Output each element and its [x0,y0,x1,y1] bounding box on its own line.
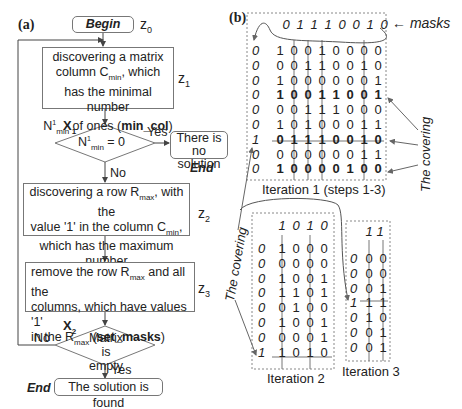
matrix-cell: 0 [372,58,384,73]
matrix-cell: 0 [288,43,300,58]
state-z2: z2 [198,205,210,224]
step-min-col-box: discovering a matrix column Cmin, which … [42,47,174,109]
z3-line1: remove the row Rmax and all the [31,265,194,300]
z2-sub: 2 [205,214,210,224]
z1-line3: has the minimal number [43,85,173,115]
no-solution-terminal: There is no solution [170,131,228,159]
matrix-cell: 0 [330,58,342,73]
matrix-cell: 1 [377,325,389,340]
matrix-cell: 1 [276,271,288,286]
matrix-cell: 0 [330,161,342,176]
matrix-cell: 0 [302,43,314,58]
row-mask: 0 [258,241,265,256]
matrix-cell: 1 [316,132,328,147]
matrix-cell: 0 [288,58,300,73]
row-mask: 1 [258,345,265,360]
matrix-cell: 1 [302,132,314,147]
matrix-cell: 0 [276,256,288,271]
row-mask: 0 [252,102,259,117]
matrix-cell: 1 [318,285,330,300]
matrix-cell: 0 [288,87,300,102]
matrix-cell: 0 [363,251,375,266]
matrix-cell: 0 [304,256,316,271]
matrix-cell: 0 [344,87,356,102]
matrix-cell: 0 [330,117,342,132]
z2-line2: value '1' in the column Cmin, [24,220,189,240]
panel-b-label: (b) [229,10,246,26]
matrix-cell: 1 [372,117,384,132]
matrix-cell: 0 [318,241,330,256]
matrix-cell: 0 [377,251,389,266]
matrix-cell: 0 [302,147,314,162]
matrix-cell: 1 [377,340,389,355]
decision-x2-label: X2 [63,318,76,336]
matrix-cell: 1 [274,73,286,88]
matrix-cell: 1 [318,330,330,345]
matrix-cell: 1 [316,102,328,117]
matrix-cell: 0 [290,256,302,271]
matrix-cell: 0 [330,73,342,88]
x2-cond-line1: Matrix is [84,331,128,359]
matrix-cell: 0 [372,102,384,117]
matrix-cell: 0 [304,241,316,256]
matrix-cell: 1 [304,345,316,360]
matrix-cell: 1 [330,87,342,102]
z1-line2: column Cmin, which [43,65,173,85]
matrix-cell: 0 [288,147,300,162]
matrix-cell: 1 [344,161,356,176]
matrix-cell: 1 [274,117,286,132]
matrix-cell: 0 [276,300,288,315]
row-mask: 0 [350,266,357,281]
z1-sub: 1 [185,79,190,89]
row-mask: 0 [252,161,259,176]
x2-yes-label: Yes [111,363,131,377]
matrix-cell: 0 [344,73,356,88]
matrix-cell: 0 [316,73,328,88]
matrix-cell: 0 [344,132,356,147]
matrix-cell: 1 [290,285,302,300]
matrix-cell: 0 [344,43,356,58]
row-mask: 0 [252,73,259,88]
step-set-masks-box: remove the row Rmax and all the columns,… [25,262,195,312]
row-mask: 0 [258,330,265,345]
matrix-cell: 0 [363,266,375,281]
matrix-cell: 1 [316,43,328,58]
matrix-cell: 0 [290,271,302,286]
matrix-cell: 0 [358,161,370,176]
matrix-cell: 1 [377,281,389,296]
matrix-cell: 1 [316,58,328,73]
matrix-cell: 1 [274,43,286,58]
solution-found-terminal: The solution is found [54,378,163,396]
matrix-cell: 1 [372,87,384,102]
z2-line1: discovering a row Rmax, with the [24,185,189,220]
row-mask: 0 [252,87,259,102]
end-label: End [27,381,51,395]
decision-x1-condition: N1min = 0 [78,135,125,152]
matrix-cell: 0 [344,102,356,117]
matrix-cell: 1 [372,147,384,162]
matrix-cell: 0 [372,161,384,176]
matrix-cell: 0 [290,345,302,360]
matrix-cell: 1 [358,147,370,162]
state-z3: z3 [198,280,210,299]
row-mask: 0 [350,340,357,355]
matrix-cell: 0 [318,345,330,360]
z3-sub: 3 [205,289,210,299]
matrix-cell: 1 [318,271,330,286]
matrix-cell: 0 [288,117,300,132]
matrix-cell: 0 [304,271,316,286]
matrix-cell: 0 [344,58,356,73]
matrix-cell: 0 [344,147,356,162]
matrix-cell: 0 [318,300,330,315]
matrix-cell: 0 [304,315,316,330]
matrix-cell: 0 [274,132,286,147]
z0-sub: 0 [147,25,152,35]
matrix-cell: 0 [363,340,375,355]
row-mask: 0 [258,256,265,271]
matrix-cell: 1 [288,132,300,147]
matrix-cell: 1 [276,345,288,360]
row-mask: 0 [258,300,265,315]
matrix-cell: 0 [377,266,389,281]
z0-letter: z [140,16,147,32]
covering-label-right: The covering [418,117,433,192]
